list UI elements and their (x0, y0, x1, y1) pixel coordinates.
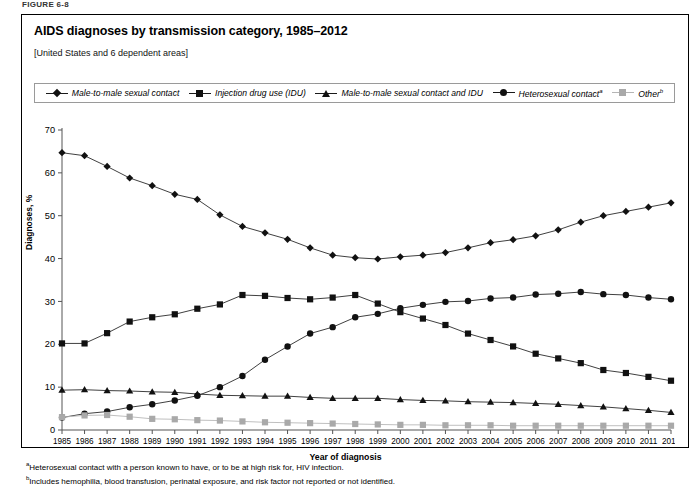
y-tick-label: 70 (45, 125, 55, 135)
series-line (62, 153, 671, 259)
data-point (555, 355, 561, 361)
x-tick-label: 2005 (504, 437, 523, 446)
data-point (465, 422, 471, 428)
y-tick-label: 60 (45, 168, 55, 178)
series-4 (59, 412, 674, 429)
data-point (645, 204, 652, 211)
data-point (262, 419, 268, 425)
data-point (510, 399, 517, 405)
footnote-b: bIncludes hemophilia, blood transfusion,… (26, 473, 666, 486)
data-point (442, 299, 448, 305)
x-tick-label: 2010 (617, 437, 636, 446)
data-point (216, 211, 223, 218)
data-point (442, 249, 449, 256)
x-tick-label: 1992 (211, 437, 230, 446)
data-point (374, 255, 381, 262)
data-point (149, 314, 155, 320)
data-point (149, 416, 155, 422)
x-tick-label: 2001 (414, 437, 433, 446)
data-point (284, 236, 291, 243)
series-2 (58, 386, 674, 415)
series-line (62, 295, 671, 381)
y-tick-label: 50 (45, 211, 55, 221)
data-point (375, 311, 381, 317)
legend-label: Male-to-male sexual contact (72, 88, 179, 98)
data-point (127, 318, 133, 324)
legend-item-0[interactable]: Male-to-male sexual contact (46, 88, 179, 98)
legend-item-1[interactable]: Injection drug use (IDU) (189, 88, 306, 98)
data-point (352, 421, 358, 427)
x-tick-label: 1994 (256, 437, 275, 446)
data-point (375, 300, 381, 306)
data-point (375, 421, 381, 427)
data-point (149, 401, 155, 407)
data-point (487, 399, 494, 405)
data-point (397, 253, 404, 260)
data-point (307, 330, 313, 336)
data-point (645, 294, 651, 300)
data-point (442, 422, 448, 428)
legend-label: Heterosexual contacta (519, 88, 603, 99)
legend-marker-square-icon (189, 89, 211, 98)
y-tick-label: 0 (50, 425, 55, 435)
data-point (172, 397, 178, 403)
data-point (487, 337, 493, 343)
data-point (668, 296, 674, 302)
data-point (284, 420, 290, 426)
data-point (239, 418, 245, 424)
legend-marker-diamond-icon (46, 89, 68, 98)
data-point (81, 152, 88, 159)
data-point (668, 378, 674, 384)
legend-item-3[interactable]: Heterosexual contacta (493, 88, 603, 99)
x-tick-label: 1986 (75, 437, 94, 446)
x-tick-label: 2002 (436, 437, 455, 446)
data-point (126, 404, 132, 410)
data-point (577, 219, 584, 226)
data-point (600, 423, 606, 429)
data-point (465, 330, 471, 336)
data-point (217, 301, 223, 307)
page-title: AIDS diagnoses by transmission category,… (34, 24, 348, 38)
data-point (172, 311, 178, 317)
legend-label: Male-to-male sexual contact and IDU (341, 88, 482, 98)
data-point (533, 423, 539, 429)
data-point (667, 199, 674, 206)
data-point (284, 343, 290, 349)
data-point (307, 420, 313, 426)
data-point (239, 223, 246, 230)
data-point (442, 322, 448, 328)
data-point (194, 417, 200, 423)
x-tick-label: 1985 (53, 437, 72, 446)
data-point (510, 343, 516, 349)
data-point (307, 244, 314, 251)
data-point (127, 414, 133, 420)
footnote-a: aHeterosexual contact with a person know… (26, 459, 666, 473)
x-tick-label: 2004 (481, 437, 500, 446)
data-point (59, 414, 65, 420)
data-point (126, 387, 133, 393)
data-point (307, 296, 313, 302)
data-point (464, 244, 471, 251)
data-point (261, 393, 268, 399)
legend-item-2[interactable]: Male-to-male sexual contact and IDU (315, 88, 482, 98)
data-point (239, 292, 245, 298)
figure-label: FIGURE 6-8 (22, 0, 69, 9)
x-tick-label: 1991 (188, 437, 207, 446)
data-point (194, 306, 200, 312)
x-tick-label: 2006 (527, 437, 546, 446)
series-0 (58, 149, 674, 262)
x-tick-label: 1998 (346, 437, 365, 446)
legend-item-4[interactable]: Otherb (612, 88, 663, 99)
data-point (239, 392, 246, 398)
x-tick-label: 2007 (549, 437, 568, 446)
data-point (352, 395, 359, 401)
data-point (578, 289, 584, 295)
footnotes: aHeterosexual contact with a person know… (26, 459, 666, 486)
data-point (172, 416, 178, 422)
x-tick-label: 2003 (459, 437, 478, 446)
data-point (81, 386, 88, 392)
y-tick-label: 30 (45, 297, 55, 307)
y-axis-label: Diagnoses, % (24, 195, 34, 250)
data-point (510, 236, 517, 243)
data-point (533, 351, 539, 357)
